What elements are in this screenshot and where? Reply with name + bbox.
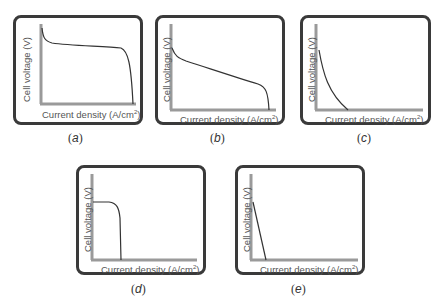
y-axis-label: Cell voltage (V) [82,187,93,252]
caption-c: (c) [357,131,371,146]
chart-c-plot [303,18,428,122]
y-axis-label: Cell voltage (V) [306,37,317,102]
chart-a-plot [16,18,140,122]
polarization-curve [93,202,121,260]
caption-a: (a) [68,131,83,146]
y-axis-label: Cell voltage (V) [21,37,32,102]
polarization-curve [319,50,348,110]
panel-b: Cell voltage (V) Current density (A/cm2) [155,15,285,125]
polarization-curve [42,28,133,104]
x-axis-label: Current density (A/cm2) [42,109,140,120]
chart-e-plot [238,168,362,272]
panel-e: Cell voltage (V) Current density (A/cm2) [235,165,365,275]
x-axis-label: Current density (A/cm2) [260,264,358,275]
x-axis-label: Current density (A/cm2) [180,114,278,125]
caption-b: (b) [210,131,225,146]
caption-d: (d) [131,282,146,297]
y-axis-label: Cell voltage (V) [161,37,172,102]
caption-e: (e) [291,282,306,297]
chart-d-plot [79,168,203,272]
y-axis-label: Cell voltage (V) [241,187,252,252]
panel-d: Cell voltage (V) Current density (A/cm2) [76,165,206,275]
chart-b-plot [158,18,282,122]
panel-a: Cell voltage (V) Current density (A/cm2) [13,15,143,125]
x-axis-label: Current density (A/cm2) [101,264,199,275]
panel-c: Cell voltage (V) Current density (A/cm2) [300,15,431,125]
polarization-curve [253,202,266,260]
polarization-curve [172,48,269,110]
x-axis-label: Current density (A/cm2) [325,114,423,125]
